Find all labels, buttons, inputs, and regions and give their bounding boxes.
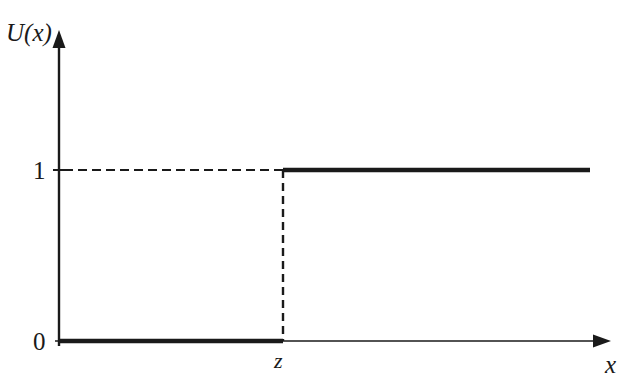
plot-canvas: [0, 0, 629, 383]
x-tick-label-z: z: [274, 350, 283, 372]
y-axis: [53, 30, 66, 346]
x-axis-arrow-icon: [593, 335, 611, 348]
y-tick-label-zero: 0: [33, 329, 46, 354]
y-axis-label: U(x): [6, 20, 52, 45]
x-axis-label: x: [605, 352, 616, 377]
y-tick-label-one: 1: [33, 158, 46, 183]
step-function-figure: U(x) x 1 0 z: [0, 0, 629, 383]
y-axis-arrow-icon: [53, 30, 66, 48]
